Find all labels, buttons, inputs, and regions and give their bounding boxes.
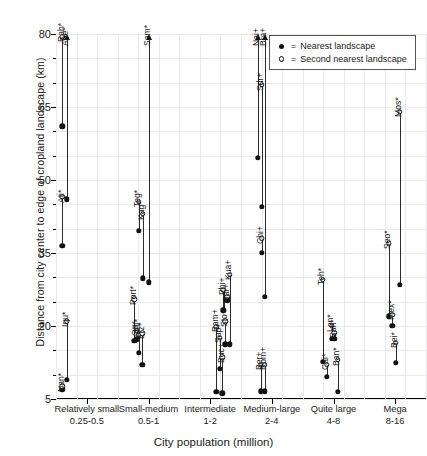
- gridline-vertical: [405, 34, 406, 399]
- nearest-landscape-point: [146, 279, 151, 284]
- legend-label: Second nearest landscape: [300, 53, 407, 66]
- y-axis-tick-mark: [51, 253, 56, 254]
- city-connector-line: [67, 321, 68, 379]
- city-label: Mex*: [386, 301, 396, 321]
- filled-circle-icon: [276, 40, 287, 53]
- y-axis-minor-tick-mark: [53, 277, 56, 278]
- gridline-vertical: [179, 34, 180, 399]
- nearest-landscape-point: [59, 243, 64, 248]
- nearest-landscape-point: [259, 204, 264, 209]
- legend-item: =Nearest landscape: [276, 40, 407, 53]
- chart-legend: =Nearest landscape=Second nearest landsc…: [269, 35, 416, 70]
- y-axis-minor-tick-mark: [53, 350, 56, 351]
- y-axis-tick-mark: [51, 180, 56, 181]
- city-connector-line: [258, 39, 259, 158]
- open-circle-icon: [276, 53, 287, 66]
- gridline-vertical: [303, 34, 304, 399]
- city-label: Sto+: [219, 309, 229, 327]
- city-connector-line: [67, 39, 68, 199]
- city-label: Nan*: [56, 373, 66, 392]
- nearest-landscape-point: [214, 389, 219, 394]
- x-axis-title: City population (million): [0, 436, 427, 448]
- city-connector-line: [265, 39, 266, 297]
- city-label: Ati*: [56, 189, 66, 202]
- city-label: Sdr+: [255, 72, 265, 90]
- plot-area: 52035506580Rah*Abe*Ati*Iqu*Nan*Sam*Teg*K…: [56, 34, 426, 399]
- city-connector-line: [262, 85, 263, 207]
- gridline-vertical: [241, 34, 242, 399]
- nearest-landscape-point: [219, 390, 224, 395]
- nearest-landscape-point: [140, 276, 145, 281]
- nearest-landscape-point: [335, 389, 340, 394]
- gridline-horizontal: [56, 399, 426, 400]
- city-label: San*: [328, 320, 338, 339]
- y-axis-minor-tick-mark: [53, 58, 56, 59]
- x-group-name: Mega: [357, 403, 427, 415]
- y-axis-minor-tick-mark: [53, 204, 56, 205]
- gridline-vertical: [200, 34, 201, 399]
- city-label: Seo*: [382, 230, 392, 249]
- y-axis-tick-mark: [51, 399, 56, 400]
- gridline-vertical: [344, 34, 345, 399]
- city-label: Kag*: [136, 201, 146, 220]
- cropland-distance-scatter-chart: Distance from city center to edge of cro…: [0, 0, 427, 456]
- city-connector-line: [230, 275, 231, 345]
- city-connector-line: [149, 39, 150, 282]
- city-label: Rom+: [258, 347, 268, 370]
- city-connector-line: [400, 112, 401, 285]
- nearest-landscape-point: [259, 250, 264, 255]
- y-axis-minor-tick-mark: [53, 302, 56, 303]
- gridline-vertical: [56, 34, 57, 399]
- legend-label: Nearest landscape: [300, 40, 375, 53]
- city-label: Bra+: [258, 28, 268, 46]
- city-label: Cai*: [320, 354, 330, 370]
- nearest-landscape-point: [136, 228, 141, 233]
- nearest-landscape-point: [59, 124, 64, 129]
- y-axis-minor-tick-mark: [53, 131, 56, 132]
- y-axis-tick-mark: [51, 326, 56, 327]
- x-group-range: 8-16: [357, 415, 427, 427]
- nearest-landscape-point: [140, 362, 145, 367]
- city-label: Kua+: [223, 260, 233, 280]
- gridline-vertical: [118, 34, 119, 399]
- gridline-vertical: [77, 34, 78, 399]
- nearest-landscape-point: [390, 323, 395, 328]
- gridline-vertical: [282, 34, 283, 399]
- city-connector-line: [143, 214, 144, 278]
- nearest-landscape-point: [262, 294, 267, 299]
- city-label: Abe*: [60, 27, 70, 46]
- legend-equals-sign: =: [291, 40, 296, 53]
- city-label: Sam*: [142, 25, 152, 46]
- y-axis-minor-tick-mark: [53, 229, 56, 230]
- nearest-landscape-point: [324, 374, 329, 379]
- city-label: Mos*: [393, 98, 403, 118]
- legend-equals-sign: =: [291, 53, 296, 66]
- x-axis-group-label: Mega8-16: [357, 403, 427, 427]
- y-axis-title: Distance from city center to edge of cro…: [34, 2, 46, 402]
- nearest-landscape-point: [393, 360, 398, 365]
- gridline-vertical: [385, 34, 386, 399]
- city-label: Iqu*: [60, 311, 70, 326]
- city-label: Port*: [128, 286, 138, 305]
- city-connector-line: [62, 197, 63, 246]
- city-label: Erz*: [136, 323, 146, 339]
- nearest-landscape-point: [227, 342, 232, 347]
- city-label: Teh*: [316, 268, 326, 285]
- nearest-landscape-point: [255, 155, 260, 160]
- nearest-landscape-point: [136, 350, 141, 355]
- y-axis-minor-tick-mark: [53, 156, 56, 157]
- y-axis-minor-tick-mark: [53, 83, 56, 84]
- city-connector-line: [62, 37, 63, 127]
- city-label: Ban*: [331, 347, 341, 366]
- city-label: Chi+: [255, 226, 265, 244]
- nearest-landscape-point: [397, 282, 402, 287]
- nearest-landscape-point: [262, 389, 267, 394]
- gridline-vertical: [364, 34, 365, 399]
- gridline-vertical: [159, 34, 160, 399]
- city-connector-line: [323, 280, 324, 362]
- y-axis-tick-mark: [51, 107, 56, 108]
- legend-item: =Second nearest landscape: [276, 53, 407, 66]
- city-label: Bei*: [389, 332, 399, 348]
- gridline-vertical: [97, 34, 98, 399]
